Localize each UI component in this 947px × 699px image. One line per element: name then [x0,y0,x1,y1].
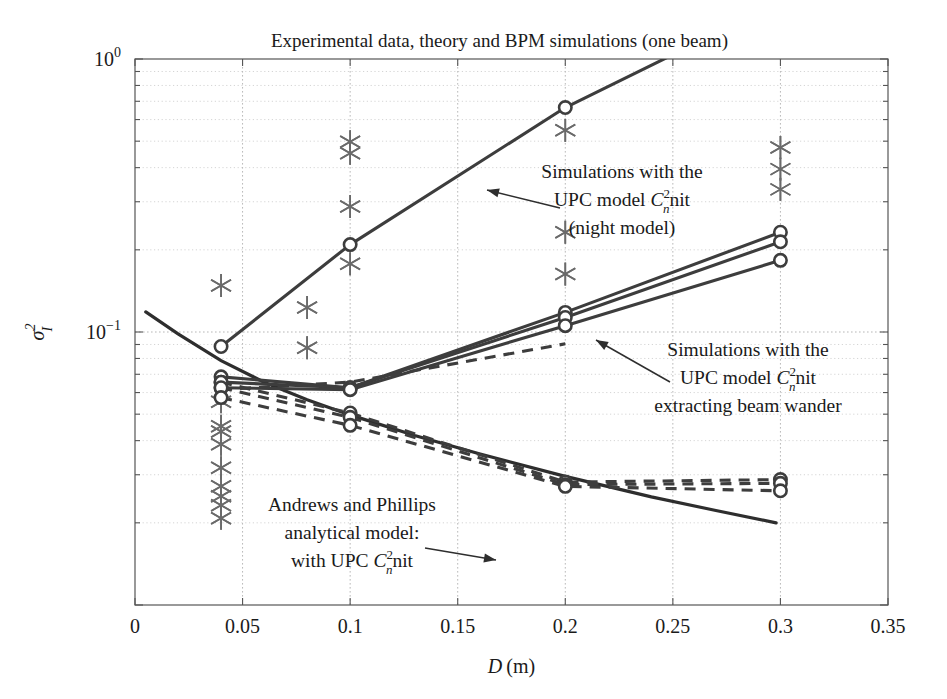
marker-circle [774,485,786,497]
annotation-andrews-phillips-line-0: Andrews and Phillips [268,494,436,515]
x-tick-label: 0.3 [768,615,793,637]
x-tick-label: 0.05 [225,615,260,637]
marker-circle [344,238,356,250]
x-tick-label: 0.1 [338,615,363,637]
chart-figure: Simulations with theUPC model C2nnit(nig… [0,0,947,699]
annotation-night-model-line-0: Simulations with the [541,161,702,182]
marker-circle [774,236,786,248]
annotation-beam-wander-line-2: extracting beam wander [654,395,842,416]
marker-circle [344,419,356,431]
chart-canvas: Simulations with theUPC model C2nnit(nig… [0,0,947,699]
marker-circle [774,254,786,266]
x-tick-label: 0.35 [871,615,906,637]
marker-circle [215,340,227,352]
x-tick-label: 0 [130,615,140,637]
marker-circle [559,101,571,113]
x-axis-title: D(m) [487,655,535,678]
marker-circle [344,383,356,395]
annotation-beam-wander-line-0: Simulations with the [667,339,828,360]
annotation-night-model-line-2: (night model) [569,217,676,239]
x-tick-label: 0.15 [440,615,475,637]
annotation-andrews-phillips-line-1: analytical model: [285,522,420,543]
chart-title: Experimental data, theory and BPM simula… [271,30,728,52]
marker-circle [559,319,571,331]
marker-circle [215,391,227,403]
x-tick-label: 0.2 [553,615,578,637]
marker-circle [559,480,571,492]
x-tick-label: 0.25 [655,615,690,637]
